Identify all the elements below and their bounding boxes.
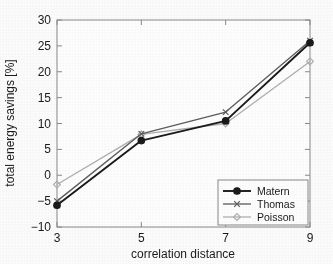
legend[interactable]: MaternThomasPoisson (218, 180, 308, 225)
marker-circle (138, 137, 144, 143)
legend-items: MaternThomasPoisson (223, 185, 295, 223)
marker-circle (307, 40, 313, 46)
x-tick-label: 9 (307, 231, 314, 245)
y-tick-label: 10 (38, 117, 52, 131)
y-axis-title: total energy savings [%] (3, 59, 17, 186)
legend-label: Poisson (257, 211, 295, 223)
marker-circle (222, 118, 228, 124)
y-tick-label: 5 (44, 142, 51, 156)
y-tick-label: −10 (31, 220, 52, 234)
y-tick-label: 20 (38, 65, 52, 79)
line-chart: −10−5051015202530 3579 correlation dista… (0, 0, 333, 264)
x-tick-label: 3 (54, 231, 61, 245)
legend-label: Matern (257, 185, 290, 197)
marker-circle (234, 188, 240, 194)
marker-circle (54, 202, 60, 208)
x-tick-label: 7 (222, 231, 229, 245)
y-tick-label: 25 (38, 39, 52, 53)
y-tick-label: 15 (38, 91, 52, 105)
figure-container: −10−5051015202530 3579 correlation dista… (0, 0, 333, 264)
y-tick-label: −5 (37, 194, 51, 208)
y-tick-label: 0 (44, 168, 51, 182)
y-tick-label: 30 (38, 13, 52, 27)
x-tick-label: 5 (138, 231, 145, 245)
x-axis-title: correlation distance (131, 247, 235, 261)
legend-label: Thomas (257, 198, 295, 210)
